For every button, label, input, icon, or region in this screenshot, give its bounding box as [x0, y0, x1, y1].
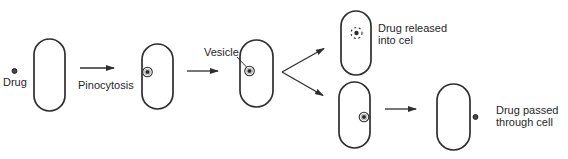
cell-passed: [437, 84, 470, 150]
pinocytosis-label: Pinocytosis: [78, 79, 134, 91]
pinocytosis-diagram: Drug Pinocytosis Vesicle: [0, 0, 568, 159]
drug-passed-label-line1: Drug passed: [496, 104, 558, 116]
vesicle-forming-icon: [143, 67, 153, 77]
vesicle-label: Vesicle: [204, 46, 239, 58]
vesicle-pointer-line: [237, 57, 247, 67]
cell-stage-1: [34, 39, 65, 111]
drug-label: Drug: [3, 76, 27, 88]
branch-arrow-bottom: [282, 72, 323, 96]
released-drug-icon: [351, 28, 362, 39]
passed-drug-particle-icon: [473, 115, 478, 120]
cell-released: [341, 11, 371, 75]
vesicle-icon: [245, 66, 255, 76]
drug-released-label-line1: Drug released: [378, 22, 447, 34]
drug-particle-icon: [12, 69, 17, 74]
drug-passed-label-line2: through cell: [496, 116, 553, 128]
branch-arrow-top: [282, 49, 324, 73]
drug-released-label-line2: into cel: [378, 34, 413, 46]
pinocytosis-diagram-canvas: Drug Pinocytosis Vesicle: [0, 0, 568, 159]
exocytosis-vesicle-icon: [359, 112, 369, 122]
